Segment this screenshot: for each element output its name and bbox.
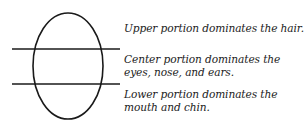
upper-portion-label: Upper portion dominates the hair.: [124, 22, 304, 35]
lower-portion-label: Lower portion dominates the mouth and ch…: [124, 88, 277, 114]
lower-label-line-2: mouth and chin.: [124, 101, 277, 114]
center-label-line-1: Center portion dominates the: [124, 53, 280, 66]
lower-label-line-1: Lower portion dominates the: [124, 88, 277, 101]
center-label-line-2: eyes, nose, and ears.: [124, 66, 280, 79]
face-oval: [33, 13, 103, 119]
center-portion-label: Center portion dominates the eyes, nose,…: [124, 53, 280, 79]
face-proportion-diagram: Upper portion dominates the hair. Center…: [0, 0, 305, 132]
upper-label-line-1: Upper portion dominates the hair.: [124, 22, 304, 34]
